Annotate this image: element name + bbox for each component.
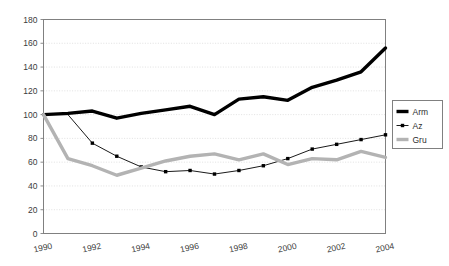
data-point-marker xyxy=(188,169,191,172)
y-tick-label: 0 xyxy=(33,229,38,239)
line-chart: 020406080100120140160180 199019921994199… xyxy=(0,0,449,266)
data-point-marker xyxy=(335,143,338,146)
legend-label-az: Az xyxy=(413,121,423,131)
chart-legend: ArmAzGru xyxy=(393,101,443,149)
data-point-marker xyxy=(164,170,167,173)
data-point-marker xyxy=(237,169,240,172)
data-point-marker xyxy=(286,157,289,160)
data-point-marker xyxy=(359,138,362,141)
y-tick-label: 100 xyxy=(23,110,37,120)
chart-background xyxy=(0,0,449,266)
data-point-marker xyxy=(384,133,387,136)
y-tick-label: 180 xyxy=(23,15,37,25)
y-tick-label: 60 xyxy=(28,157,38,167)
chart-container: 020406080100120140160180 199019921994199… xyxy=(0,0,449,266)
y-tick-label: 80 xyxy=(28,133,38,143)
legend-label-arm: Arm xyxy=(413,107,429,117)
legend-marker-az xyxy=(401,124,404,127)
y-tick-label: 160 xyxy=(23,38,37,48)
data-point-marker xyxy=(115,155,118,158)
y-tick-label: 140 xyxy=(23,62,37,72)
data-point-marker xyxy=(262,164,265,167)
data-point-marker xyxy=(213,172,216,175)
y-tick-label: 20 xyxy=(28,205,38,215)
data-point-marker xyxy=(311,147,314,150)
data-point-marker xyxy=(91,141,94,144)
y-tick-label: 40 xyxy=(28,181,38,191)
legend-label-gru: Gru xyxy=(413,135,427,145)
y-tick-label: 120 xyxy=(23,86,37,96)
